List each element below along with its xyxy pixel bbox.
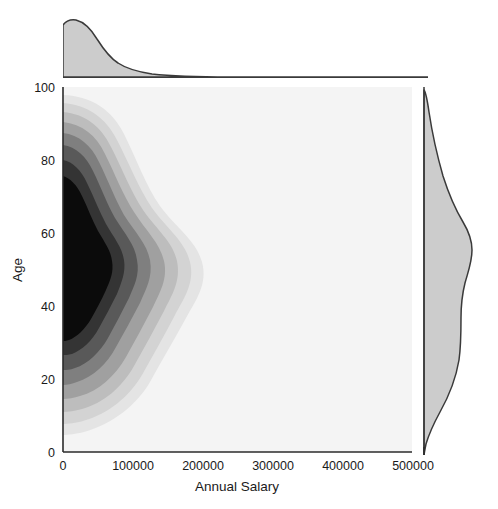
- figure-canvas: 0 100000 200000 300000 400000 500000 0 2…: [0, 0, 498, 509]
- y-tick-label: 20: [41, 373, 55, 387]
- x-tick-label: 0: [60, 459, 67, 473]
- y-tick-label: 60: [41, 227, 55, 241]
- joint-kde-figure: 0 100000 200000 300000 400000 500000 0 2…: [0, 0, 498, 509]
- x-axis-title: Annual Salary: [195, 479, 279, 494]
- y-tick-labels: 0 20 40 60 80 100: [34, 81, 55, 460]
- y-tick-label: 40: [41, 300, 55, 314]
- main-axes: 0 100000 200000 300000 400000 500000 0 2…: [10, 81, 434, 494]
- y-axis-title: Age: [10, 258, 25, 282]
- y-tick-label: 0: [48, 446, 55, 460]
- y-tick-label: 80: [41, 154, 55, 168]
- x-tick-label: 500000: [392, 459, 434, 473]
- marginal-x-kde-fill: [63, 20, 428, 78]
- x-tick-label: 300000: [252, 459, 294, 473]
- y-tick-label: 100: [34, 81, 55, 95]
- x-tick-labels: 0 100000 200000 300000 400000 500000: [60, 459, 434, 473]
- marginal-y-axes: [424, 87, 472, 460]
- x-tick-label: 200000: [182, 459, 224, 473]
- x-tick-label: 100000: [112, 459, 154, 473]
- x-tick-label: 400000: [322, 459, 364, 473]
- marginal-x-axes: [63, 20, 428, 78]
- marginal-y-kde-fill: [424, 90, 472, 455]
